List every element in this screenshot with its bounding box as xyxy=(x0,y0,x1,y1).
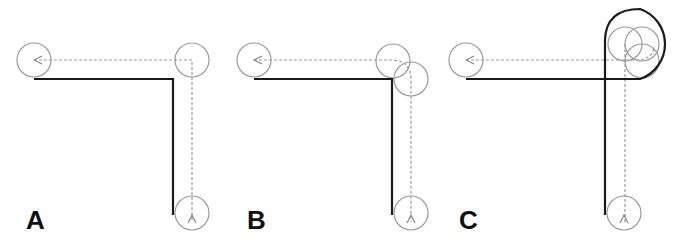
panel-label-c: C xyxy=(459,207,478,233)
panel-b xyxy=(237,43,428,230)
arrow-up-icon xyxy=(620,215,628,223)
dashed-trajectory xyxy=(34,60,192,222)
panel-a xyxy=(17,43,209,230)
panel-c xyxy=(449,9,665,230)
solid-path xyxy=(254,79,392,215)
dashed-trajectory xyxy=(466,44,654,222)
corner-circle-1 xyxy=(376,44,410,78)
dashed-trajectory xyxy=(254,60,411,222)
end-circle xyxy=(607,196,641,230)
panel-label-a: A xyxy=(26,207,45,233)
diagram-canvas xyxy=(0,0,698,245)
panel-label-b: B xyxy=(247,207,266,233)
solid-path xyxy=(34,79,173,215)
solid-path xyxy=(466,9,665,215)
